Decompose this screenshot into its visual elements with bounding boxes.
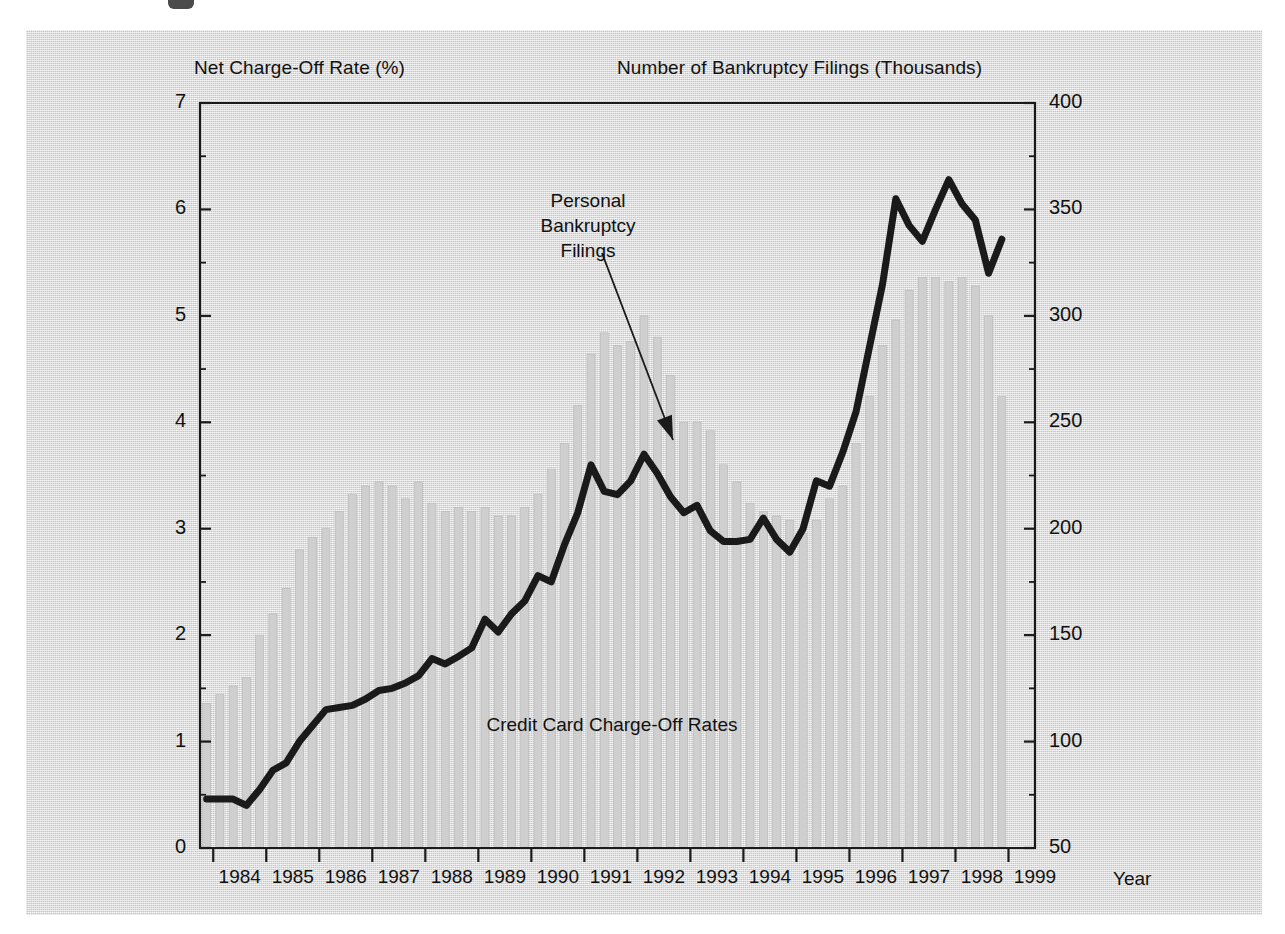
- left-tick-2: 2: [152, 622, 186, 645]
- x-axis-title: Year: [1113, 868, 1151, 890]
- annotation-arrow: [602, 253, 673, 440]
- left-tick-3: 3: [152, 516, 186, 539]
- left-tick-1: 1: [152, 729, 186, 752]
- left-tick-4: 4: [152, 409, 186, 432]
- figure-root: Net Charge-Off Rate (%) Number of Bankru…: [0, 0, 1285, 934]
- x-tick-1999: 1999: [1003, 866, 1067, 888]
- right-tick-400: 400: [1049, 90, 1105, 113]
- right-tick-50: 50: [1049, 835, 1105, 858]
- left-tick-7: 7: [152, 90, 186, 113]
- left-tick-5: 5: [152, 303, 186, 326]
- chart-plot-area: [0, 0, 1285, 934]
- left-tick-6: 6: [152, 196, 186, 219]
- right-tick-100: 100: [1049, 729, 1105, 752]
- right-tick-200: 200: [1049, 516, 1105, 539]
- right-tick-150: 150: [1049, 622, 1105, 645]
- bankruptcy-filings-bars: [203, 278, 1006, 848]
- right-tick-350: 350: [1049, 196, 1105, 219]
- annotation-credit-card-charge-off-rates: Credit Card Charge-Off Rates: [452, 712, 772, 737]
- right-tick-300: 300: [1049, 303, 1105, 326]
- left-tick-0: 0: [152, 835, 186, 858]
- right-tick-250: 250: [1049, 409, 1105, 432]
- annotation-personal-bankruptcy-filings: Personal Bankruptcy Filings: [513, 188, 663, 263]
